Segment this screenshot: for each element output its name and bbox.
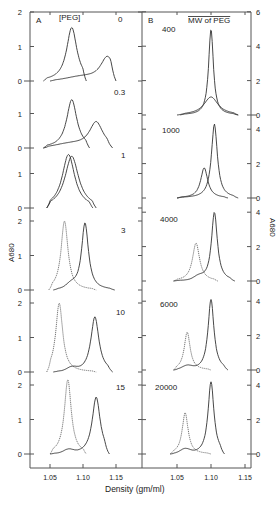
y-tick-label: 4 <box>256 297 260 306</box>
curve-solid-1 <box>47 155 93 209</box>
curve-solid-2 <box>177 168 228 198</box>
subplot-label: 0 <box>118 15 123 24</box>
y-axis-label-right: A680 <box>268 218 277 237</box>
y-tick-label: 4 <box>256 208 260 217</box>
subplot-label: 15 <box>116 383 125 392</box>
curve-solid <box>53 223 114 290</box>
y-tick-label: 1 <box>18 252 22 261</box>
x-tick-label: 1.10 <box>76 474 90 481</box>
curve-solid-2 <box>180 97 238 115</box>
y-tick-label: 2 <box>18 381 22 390</box>
curve-dotted <box>170 413 211 454</box>
y-tick-label: 6 <box>256 8 260 17</box>
y-tick-label: 1 <box>18 170 22 179</box>
curve-solid <box>50 397 109 454</box>
curve-solid <box>170 382 224 454</box>
y-tick-label: 4 <box>256 42 260 51</box>
y-tick-label: 4 <box>256 381 260 390</box>
subplot-label: 1000 <box>162 126 180 135</box>
curves <box>43 28 238 455</box>
y-tick-label: 2 <box>18 8 22 17</box>
subplot-label: 4000 <box>160 215 178 224</box>
curve-solid-1 <box>43 100 89 148</box>
y-tick-label: 0 <box>18 286 22 295</box>
curve-solid-1 <box>177 30 238 115</box>
axes-frame: 1.051.101.1500120.301101301210012150121.… <box>18 8 260 481</box>
curve-solid <box>174 300 228 371</box>
curve-dotted <box>50 380 86 454</box>
subplot-label: 0.3 <box>114 88 126 97</box>
y-tick-label: 1 <box>18 334 22 343</box>
y-tick-label: 0 <box>18 77 22 86</box>
subplot-label: 6000 <box>160 300 178 309</box>
curve-solid-1 <box>43 28 86 82</box>
panel-b-header: MW of PEG <box>188 16 230 25</box>
x-axis-label: Density (gm/ml) <box>105 484 165 494</box>
subplot-label: 1 <box>121 151 126 160</box>
y-tick-label: 2 <box>256 160 260 169</box>
x-tick-label: 1.10 <box>204 474 218 481</box>
y-tick-label: 2 <box>256 332 260 341</box>
figure-canvas: 1.051.101.1500120.301101301210012150121.… <box>0 0 280 505</box>
x-tick-label: 1.15 <box>109 474 123 481</box>
subplot-label: 20000 <box>155 383 178 392</box>
x-tick-label: 1.15 <box>238 474 252 481</box>
panel-a-letter: A <box>36 16 42 25</box>
y-tick-label: 0 <box>18 450 22 459</box>
panel-b-letter: B <box>148 16 153 25</box>
y-tick-label: 2 <box>256 77 260 86</box>
curve-solid-2 <box>47 156 96 208</box>
panel-a-header: [PEG] <box>59 13 80 22</box>
y-tick-label: 2 <box>18 217 22 226</box>
subplot-label: 400 <box>162 25 176 34</box>
y-tick-label: 1 <box>18 110 22 119</box>
curve-solid <box>174 213 235 282</box>
y-tick-label: 0 <box>18 368 22 377</box>
subplot-label: 3 <box>121 226 126 235</box>
subplot-label: 10 <box>116 308 125 317</box>
y-tick-label: 1 <box>18 416 22 425</box>
y-tick-label: 2 <box>256 243 260 252</box>
y-tick-label: 1 <box>18 43 22 52</box>
y-tick-label: 0 <box>18 144 22 153</box>
curve-solid-1 <box>177 124 238 198</box>
y-tick-label: 2 <box>256 416 260 425</box>
y-tick-label: 2 <box>18 299 22 308</box>
x-tick-label: 1.05 <box>43 474 57 481</box>
y-tick-label: 0 <box>18 204 22 213</box>
x-tick-label: 1.05 <box>170 474 184 481</box>
y-tick-label: 4 <box>256 125 260 134</box>
curve-dotted <box>47 303 96 372</box>
y-axis-label-left: A680 <box>7 243 16 262</box>
